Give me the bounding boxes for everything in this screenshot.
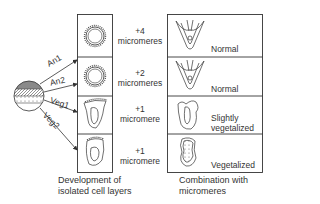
vegetalized-larva: [181, 138, 197, 166]
pluteus-larva-1: [176, 20, 204, 49]
ciliated-blastula-1: [85, 26, 106, 47]
outcome-2: Normal: [211, 84, 238, 94]
outcome-3: Slightly vegetalized: [211, 113, 254, 133]
slightly-vegetalized-larva: [178, 101, 198, 129]
micromere-label-1: +4 micromeres: [112, 26, 168, 46]
ciliated-blastula-2: [85, 66, 106, 87]
micromere-label-2: +2 micromeres: [112, 68, 168, 88]
veg1-embryo: [84, 99, 107, 128]
left-caption: Development of isolated cell layers: [58, 175, 132, 197]
veg2-embryo: [86, 137, 104, 165]
pluteus-larva-2: [176, 60, 204, 89]
right-caption: Combination with micromeres: [179, 175, 248, 197]
micromere-label-3: +1 micromere: [112, 104, 168, 124]
outcome-4: Vegetalized: [211, 160, 255, 170]
outcome-1: Normal: [211, 44, 238, 54]
micromere-label-4: +1 micromere: [112, 146, 168, 166]
